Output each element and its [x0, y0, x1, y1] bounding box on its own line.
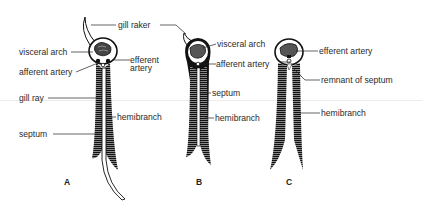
panel-letter-b: B	[196, 177, 202, 187]
label-septum-a: septum	[19, 130, 47, 139]
label-afferent-artery-a: afferent artery	[19, 68, 72, 77]
label-gill-ray: gill ray	[19, 94, 44, 103]
gill-diagram-b	[184, 33, 212, 165]
panel-letter-c: C	[286, 177, 292, 187]
gill-diagram-c	[270, 39, 303, 170]
label-hemibranch-c: hemibranch	[321, 109, 366, 118]
label-septum-b: septum	[212, 89, 240, 98]
label-visceral-arch-a: visceral arch	[19, 48, 67, 57]
gill-diagram-a	[83, 17, 125, 200]
label-efferent-artery-c: efferent artery	[319, 47, 372, 56]
label-hemibranch-b: hemibranch	[215, 114, 260, 123]
label-visceral-arch-b: visceral arch	[217, 40, 265, 49]
label-gill-raker: gill raker	[118, 21, 150, 30]
label-remnant-of-septum: remnant of septum	[321, 76, 393, 85]
label-efferent-artery-a-line2: artery	[130, 64, 152, 73]
panel-letter-a: A	[64, 177, 70, 187]
label-afferent-artery-b: afferent artery	[216, 60, 269, 69]
label-hemibranch-a: hemibranch	[117, 113, 162, 122]
